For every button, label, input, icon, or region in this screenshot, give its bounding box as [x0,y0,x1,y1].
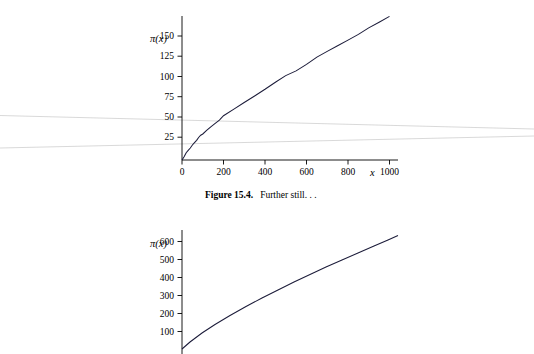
chart-1-xtick-400: 400 [258,167,273,177]
chart-1-xtick-0: 0 [180,167,185,177]
chart-2-ytick-100: 100 [160,327,175,337]
chart-1-ytick-125: 125 [160,51,175,61]
chart-1-xtick-800: 800 [341,167,356,177]
chart-2-series-pi [182,236,398,350]
chart-figure-1: 25 50 75 100 125 150 0 200 400 600 800 1… [120,8,420,178]
chart-2-ytick-400: 400 [160,273,175,283]
chart-1-series-pi [182,16,390,160]
chart-2-ytick-200: 200 [160,309,175,319]
chart-1-ytick-labels: 25 50 75 100 125 150 [160,31,175,142]
chart-2-axes [178,230,183,354]
chart-2-ytick-500: 500 [160,255,175,265]
chart-1-axes [178,16,399,165]
figure-1-caption-text: Further still. . . [253,190,316,200]
chart-1-ytick-75: 75 [165,92,175,102]
chart-1-ytick-50: 50 [165,112,175,122]
chart-1-ylabel: π(x) [150,33,167,45]
chart-2-svg: 600 500 400 300 200 100 π(x) [120,225,440,354]
chart-1-ytick-25: 25 [165,132,175,142]
figure-1-caption-label: Figure 15.4. [205,190,253,200]
chart-1-xlabel: x [369,167,375,178]
chart-1-xtick-labels: 0 200 400 600 800 1000 [180,167,400,177]
chart-2-ylabel: π(x) [150,238,167,250]
chart-1-xtick-200: 200 [216,167,231,177]
chart-figure-2: 600 500 400 300 200 100 π(x) [120,225,440,354]
chart-2-ytick-labels: 600 500 400 300 200 100 [160,237,175,337]
chart-1-xtick-1000: 1000 [380,167,399,177]
chart-2-ytick-300: 300 [160,291,175,301]
chart-1-xtick-600: 600 [299,167,314,177]
page-root: 25 50 75 100 125 150 0 200 400 600 800 1… [0,0,534,354]
chart-1-ytick-100: 100 [160,72,175,82]
figure-1-caption: Figure 15.4.Further still. . . [205,190,317,200]
chart-1-svg: 25 50 75 100 125 150 0 200 400 600 800 1… [120,8,420,178]
